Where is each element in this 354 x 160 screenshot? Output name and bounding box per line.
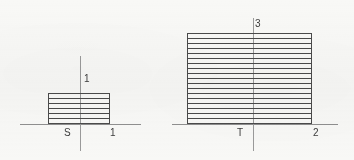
right-region-label: T <box>237 128 243 138</box>
left-panel-group <box>20 56 141 151</box>
figure-canvas: 1 S 1 3 T 2 <box>0 0 354 160</box>
right-hatched-rectangle <box>188 34 312 124</box>
left-x-value-label: 1 <box>110 128 116 138</box>
left-hatch-lines <box>49 99 110 119</box>
figure-graphics <box>0 0 354 160</box>
left-y-value-label: 1 <box>84 74 90 84</box>
left-region-label: S <box>64 128 71 138</box>
right-y-value-label: 3 <box>255 19 261 29</box>
right-hatch-lines <box>188 39 312 119</box>
left-hatched-rectangle <box>49 94 110 124</box>
right-x-value-label: 2 <box>313 128 319 138</box>
